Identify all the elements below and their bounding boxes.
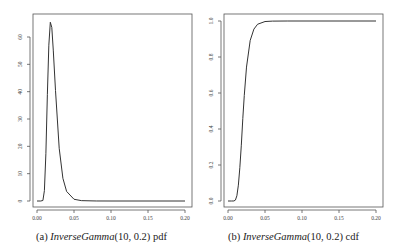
pdf-curve	[37, 22, 185, 201]
cdf-caption-label: (b)	[228, 231, 240, 242]
x-tick-label: 0.20	[371, 215, 381, 221]
pdf-x-axis: 0.000.050.100.150.20	[32, 210, 190, 221]
y-tick-label: 0.0	[208, 197, 214, 204]
y-tick-label: 60	[17, 34, 23, 40]
pdf-caption-args: (10, 0.2)	[114, 231, 150, 242]
pdf-y-axis: 0102030405060	[17, 34, 30, 202]
y-tick-label: 0.2	[208, 161, 214, 168]
cdf-x-axis: 0.000.050.100.150.20	[223, 210, 381, 221]
pdf-caption: (a) InverseGamma(10, 0.2) pdf	[36, 231, 167, 242]
y-tick-label: 50	[17, 61, 23, 67]
x-tick-label: 0.15	[334, 215, 344, 221]
x-tick-label: 0.10	[106, 215, 116, 221]
cdf-caption-math: InverseGamma	[243, 231, 307, 242]
cdf-panel: 0.000.050.100.150.20 0.00.20.40.60.81.0	[208, 14, 383, 221]
y-tick-label: 10	[17, 171, 23, 177]
y-tick-label: 1.0	[208, 17, 214, 24]
pdf-panel: 0.000.050.100.150.20 0102030405060	[17, 14, 192, 221]
figure-canvas: 0.000.050.100.150.20 0102030405060 0.000…	[0, 0, 402, 251]
y-tick-label: 0.8	[208, 53, 214, 60]
x-tick-label: 0.00	[32, 215, 42, 221]
y-tick-label: 20	[17, 143, 23, 149]
y-tick-label: 0.4	[208, 125, 214, 132]
x-tick-label: 0.10	[297, 215, 307, 221]
x-tick-label: 0.05	[69, 215, 79, 221]
x-tick-label: 0.05	[260, 215, 270, 221]
pdf-caption-math: InverseGamma	[50, 231, 114, 242]
cdf-caption-args: (10, 0.2)	[307, 231, 343, 242]
cdf-caption: (b) InverseGamma(10, 0.2) cdf	[228, 231, 359, 242]
y-tick-label: 30	[17, 116, 23, 122]
y-tick-label: 0	[17, 199, 23, 202]
cdf-y-axis: 0.00.20.40.60.81.0	[208, 17, 221, 204]
x-tick-label: 0.00	[223, 215, 233, 221]
y-tick-label: 0.6	[208, 89, 214, 96]
cdf-plot-frame	[224, 14, 383, 207]
pdf-caption-suffix: pdf	[153, 231, 167, 242]
cdf-curve	[228, 21, 376, 201]
cdf-caption-suffix: cdf	[346, 231, 359, 242]
x-tick-label: 0.20	[180, 215, 190, 221]
x-tick-label: 0.15	[143, 215, 153, 221]
pdf-caption-label: (a)	[36, 231, 48, 242]
y-tick-label: 40	[17, 89, 23, 95]
